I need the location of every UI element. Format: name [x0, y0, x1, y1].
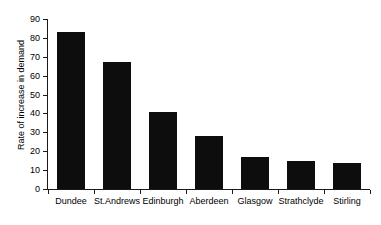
y-tick-label: 30 — [16, 128, 40, 137]
plot-area — [48, 19, 370, 189]
y-tick-label: 50 — [16, 91, 40, 100]
y-tick-label: 40 — [16, 109, 40, 118]
x-tick-mark — [94, 190, 95, 194]
x-tick-mark — [370, 190, 371, 194]
x-tick-mark — [278, 190, 279, 194]
y-tick-label: 90 — [16, 15, 40, 24]
x-tick-mark — [48, 190, 49, 194]
x-tick-mark — [232, 190, 233, 194]
y-tick-label: 10 — [16, 166, 40, 175]
bar — [333, 163, 361, 189]
y-tick-label: 0 — [16, 185, 40, 194]
bar — [241, 157, 269, 189]
y-tick-label: 80 — [16, 34, 40, 43]
y-tick-label: 60 — [16, 72, 40, 81]
x-tick-mark — [140, 190, 141, 194]
y-tick-label: 20 — [16, 147, 40, 156]
bar — [195, 136, 223, 189]
x-tick-mark — [324, 190, 325, 194]
y-tick-label: 70 — [16, 53, 40, 62]
bar — [287, 161, 315, 189]
x-axis-line — [47, 189, 370, 190]
bar — [103, 62, 131, 189]
bar — [57, 32, 85, 189]
x-tick-mark — [186, 190, 187, 194]
bar — [149, 112, 177, 189]
bar-chart: Rate of increase in demand 0102030405060… — [0, 0, 381, 225]
x-tick-label: Stirling — [316, 196, 378, 207]
